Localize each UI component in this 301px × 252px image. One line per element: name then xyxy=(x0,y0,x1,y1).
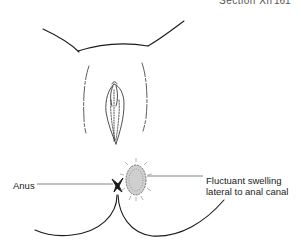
swelling-label-line1: Fluctuant swelling xyxy=(206,175,288,186)
fluctuant-swelling xyxy=(120,158,152,201)
swelling-label: Fluctuant swelling lateral to anal canal xyxy=(206,175,288,197)
anus-mark xyxy=(112,178,123,192)
upper-body-outline xyxy=(43,21,184,52)
anatomical-illustration xyxy=(0,0,301,252)
labia-majora-outline xyxy=(84,63,147,133)
anus-label: Anus xyxy=(13,180,35,191)
vulva-drawing xyxy=(106,82,124,144)
buttocks-outline xyxy=(35,195,224,236)
swelling-label-line2: lateral to anal canal xyxy=(206,186,288,197)
